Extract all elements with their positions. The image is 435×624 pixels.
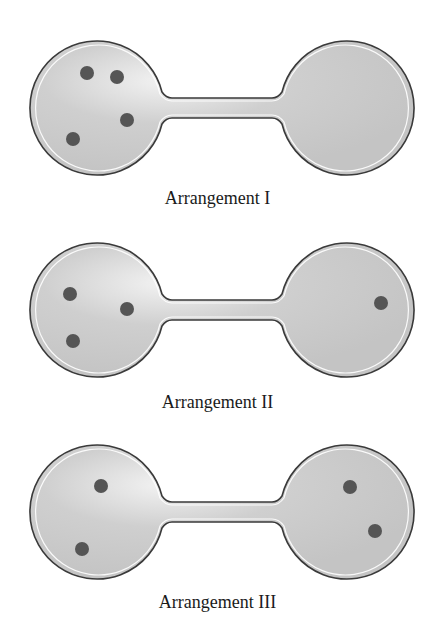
gas-molecule-icon [120,302,134,316]
gas-molecule-icon [94,479,108,493]
gas-molecule-icon [75,542,89,556]
arrangement-1: Arrangement I [0,0,435,220]
arrangement-2: Arrangement II [0,220,435,420]
gas-molecule-icon [110,70,124,84]
flask-outline [30,243,414,377]
gas-molecule-icon [66,334,80,348]
gas-molecule-icon [343,480,357,494]
caption-arrangement-2: Arrangement II [0,392,435,413]
gas-molecule-icon [120,113,134,127]
gas-molecule-icon [80,66,94,80]
flask-diagram-1 [0,0,435,190]
flask-outline [30,445,414,579]
flask-outline [30,41,414,175]
caption-arrangement-3: Arrangement III [0,592,435,613]
flask-diagram-2 [0,220,435,390]
caption-arrangement-1: Arrangement I [0,188,435,209]
flask-diagram-3 [0,420,435,590]
gas-molecule-icon [374,296,388,310]
gas-molecule-icon [368,524,382,538]
gas-molecule-icon [63,287,77,301]
gas-molecule-icon [66,132,80,146]
arrangement-3: Arrangement III [0,420,435,624]
